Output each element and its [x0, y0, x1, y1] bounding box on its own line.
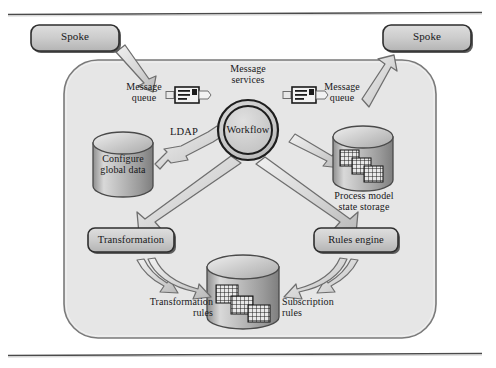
rule-top	[8, 13, 482, 17]
spoke-right-box[interactable]	[383, 25, 473, 53]
workflow-circle[interactable]	[218, 100, 278, 160]
spoke-left-box[interactable]	[31, 25, 121, 53]
diagram-canvas	[0, 0, 496, 368]
configure-global-data-cylinder	[93, 132, 153, 197]
rule-bottom	[8, 354, 482, 358]
rules-engine-box[interactable]	[314, 228, 400, 254]
transformation-box[interactable]	[88, 228, 176, 254]
rules-store-cylinder	[207, 255, 279, 329]
figure-root: Spoke Spoke Message services Message que…	[0, 0, 496, 368]
process-model-state-storage-cylinder	[333, 126, 393, 191]
